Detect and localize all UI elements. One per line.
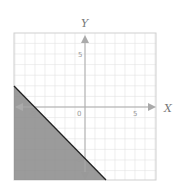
x-tick-5: 5 <box>133 110 137 118</box>
y-axis-arrow-up <box>81 35 89 43</box>
y-axis-label: Y <box>81 17 90 30</box>
origin-label: 0 <box>77 110 81 118</box>
y-tick-5: 5 <box>78 51 82 59</box>
x-tick-neg5: -5 <box>29 110 36 118</box>
x-axis-label: X <box>163 102 173 115</box>
y-tick-neg5: -5 <box>75 156 82 164</box>
coordinate-plane: Y X 0 5 -5 5 -5 <box>0 0 181 189</box>
